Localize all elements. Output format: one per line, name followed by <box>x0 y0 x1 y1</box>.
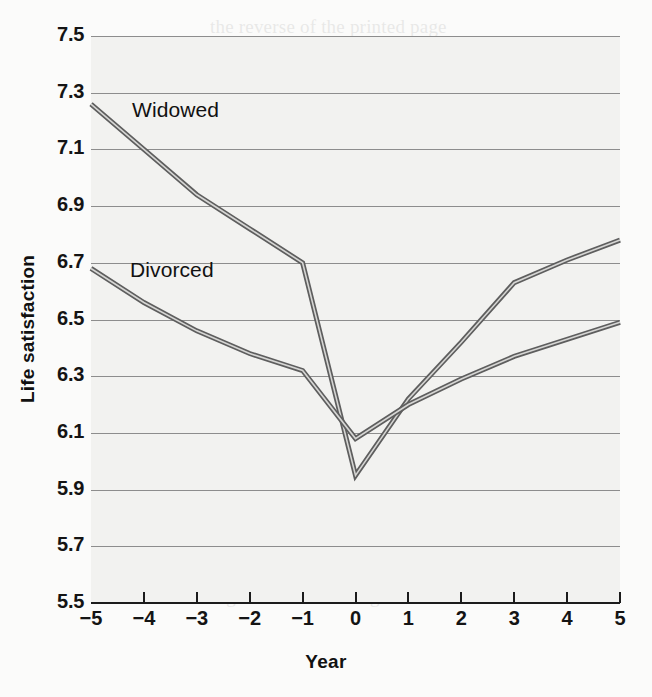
series-line-core-divorced <box>91 268 620 438</box>
series-lines-layer <box>0 0 652 697</box>
x-axis-title: Year <box>0 651 652 673</box>
series-line-outline-widowed <box>91 104 620 475</box>
series-label-widowed: Widowed <box>132 98 219 122</box>
series-line-outline-divorced <box>91 268 620 438</box>
series-label-divorced: Divorced <box>130 258 214 282</box>
life-satisfaction-line-chart: 7.57.37.16.96.76.56.36.15.95.75.5 −5−4−3… <box>0 0 652 697</box>
series-line-core-widowed <box>91 104 620 475</box>
y-axis-title: Life satisfaction <box>17 219 39 439</box>
